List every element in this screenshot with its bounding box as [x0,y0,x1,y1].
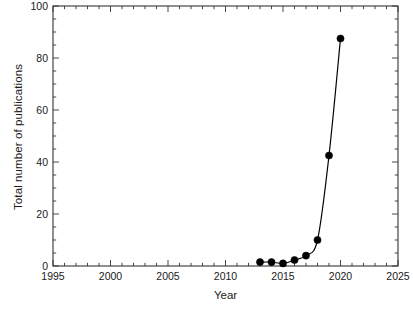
y-tick-label: 40 [22,156,48,168]
y-tick-label: 0 [22,260,48,272]
data-point-marker [325,152,332,159]
data-point-marker [302,252,309,259]
y-tick-label: 80 [22,52,48,64]
data-point-marker [268,259,275,266]
x-axis-label: Year [53,289,398,301]
y-axis-label: Total number of publications [12,47,24,227]
y-tick-label: 20 [22,208,48,220]
data-point-marker [337,35,344,42]
axis-frame [53,6,398,266]
data-point-marker [279,260,286,267]
x-tick-label: 2020 [329,270,352,282]
data-point-marker [256,259,263,266]
x-tick-label: 2010 [214,270,237,282]
y-tick-label: 100 [22,0,48,12]
x-tick-label: 2015 [271,270,294,282]
data-point-marker [314,236,321,243]
x-tick-label: 2005 [156,270,179,282]
x-tick-label: 2000 [99,270,122,282]
x-tick-label: 2025 [386,270,409,282]
data-point-marker [291,256,298,263]
plot-area [0,0,413,310]
publications-growth-chart: Total number of publications Year 199520… [0,0,413,310]
y-tick-label: 60 [22,104,48,116]
